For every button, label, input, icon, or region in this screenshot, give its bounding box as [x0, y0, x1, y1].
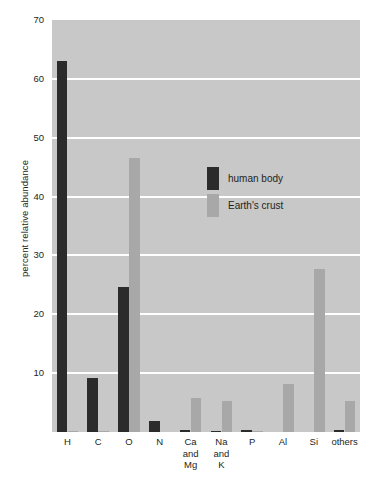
legend-item: human body: [207, 165, 283, 192]
x-axis-tick-label: others: [329, 436, 360, 448]
x-axis-tick-label: Al: [268, 436, 299, 448]
bar: [283, 384, 294, 432]
bar-group: [211, 20, 233, 432]
bar: [345, 401, 356, 432]
y-axis-tick-label: 50: [18, 133, 44, 143]
bar-group: [57, 20, 79, 432]
y-axis-tick-label: 20: [18, 309, 44, 319]
bar: [68, 431, 79, 432]
chart-legend: human bodyEarth's crust: [207, 165, 283, 219]
x-axis-tick-label: N: [144, 436, 175, 448]
x-axis-tick-labels: HCONCa and MgNa and KPAlSiothers: [52, 436, 360, 486]
bar: [98, 431, 109, 432]
bar-group: [272, 20, 294, 432]
bar: [252, 431, 263, 432]
bar: [149, 421, 160, 432]
bar: [191, 398, 202, 432]
x-axis-tick-label: H: [52, 436, 83, 448]
y-axis-tick-label: 70: [18, 15, 44, 25]
bar-group: [334, 20, 356, 432]
bar-group: [87, 20, 109, 432]
bar-chart: percent relative abundance 1020304050607…: [0, 0, 379, 486]
legend-item: Earth's crust: [207, 192, 283, 219]
x-axis-tick-label: Ca and Mg: [175, 436, 206, 471]
legend-swatch: [207, 194, 219, 217]
bar: [314, 269, 325, 432]
y-axis-tick-label: 60: [18, 74, 44, 84]
bars-layer: [52, 20, 360, 432]
x-axis-tick-label: P: [237, 436, 268, 448]
y-axis-tick-label: 30: [18, 250, 44, 260]
bar-group: [241, 20, 263, 432]
legend-swatch: [207, 167, 219, 190]
bar: [241, 430, 252, 432]
legend-label: Earth's crust: [228, 200, 283, 211]
bar: [118, 287, 129, 432]
bar-group: [149, 20, 171, 432]
y-axis-tick-label: 40: [18, 192, 44, 202]
bar-group: [180, 20, 202, 432]
y-axis-title: percent relative abundance: [19, 129, 30, 309]
x-axis-tick-label: C: [83, 436, 114, 448]
y-axis-tick-label: 10: [18, 368, 44, 378]
legend-label: human body: [228, 173, 283, 184]
bar: [87, 378, 98, 432]
x-axis-tick-label: O: [114, 436, 145, 448]
x-axis-tick-label: Si: [298, 436, 329, 448]
bar: [57, 61, 68, 432]
bar-group: [118, 20, 140, 432]
bar: [129, 158, 140, 432]
x-axis-tick-label: Na and K: [206, 436, 237, 471]
bar: [222, 401, 233, 432]
bar-group: [303, 20, 325, 432]
bar: [334, 430, 345, 432]
bar: [180, 430, 191, 432]
bar: [211, 431, 222, 432]
